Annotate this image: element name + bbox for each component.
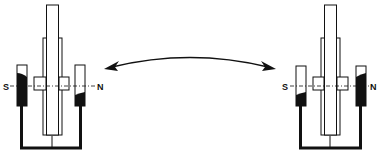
right-south-label: S [282,82,288,92]
double-arrow-icon [104,58,276,72]
left-apparatus: S N [3,5,104,148]
right-north-fill [356,73,366,106]
left-central-rod [47,5,59,135]
left-north-label: N [97,82,104,92]
right-cross-block-left [313,77,324,90]
left-south-label: S [3,82,9,92]
diagram-canvas: S N S N [0,0,380,159]
right-north-label: N [370,82,377,92]
right-cross-block-right [337,77,348,90]
left-south-fill [17,73,27,106]
left-cross-block-left [34,77,46,90]
right-apparatus: S N [282,5,377,148]
right-central-rod [325,5,337,135]
left-cross-block-right [59,77,69,90]
